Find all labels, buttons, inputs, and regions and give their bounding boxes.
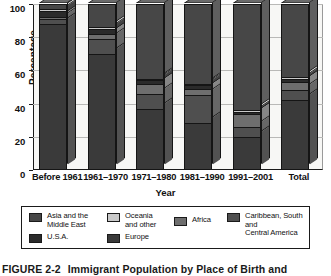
bar-front-face[interactable] [184, 4, 212, 170]
y-tick-0 [29, 170, 33, 171]
bar-group[interactable] [88, 4, 116, 170]
bar-side-face [212, 0, 221, 164]
bar-group[interactable] [281, 4, 309, 170]
bar-side-face [261, 0, 270, 164]
x-axis-title: Year [0, 187, 331, 198]
bar-side-segment [117, 43, 124, 164]
bar-side-segment [213, 113, 220, 164]
figure-caption-text: Immigrant Population by Place of Birth a… [68, 263, 287, 275]
y-axis: 020406080100 [0, 4, 31, 170]
legend-item-label: Oceania and other [125, 212, 156, 229]
legend-item-label: U.S.A. [47, 233, 68, 242]
legend-item-label: Africa [192, 216, 211, 225]
x-tick-label: Before 1961 [32, 172, 83, 182]
y-tick-label-60: 60 [15, 69, 25, 80]
bar-side-segment [68, 13, 75, 164]
plot-background [33, 4, 323, 170]
x-tick-label: Total [289, 172, 310, 182]
bar-group[interactable] [136, 4, 164, 170]
legend-item-label: Europe [125, 233, 149, 242]
bar-segment[interactable] [185, 96, 211, 124]
bar-segment[interactable] [89, 55, 115, 170]
figure-caption: FIGURE 2-2Immigrant Population by Place … [2, 263, 329, 275]
y-tick-20 [29, 137, 33, 138]
y-tick-label-0: 0 [20, 169, 25, 180]
bar-side-segment [165, 98, 172, 164]
legend-item[interactable]: U.S.A. [29, 233, 101, 243]
x-tick-label: 1991–2001 [228, 172, 273, 182]
bar-segment[interactable] [89, 40, 115, 55]
figure-container: 020406080100 Percentage Before 19611961–… [0, 0, 331, 276]
bar-segment[interactable] [234, 138, 260, 170]
x-tick-label: 1961–1970 [83, 172, 128, 182]
bar-group[interactable] [39, 4, 67, 170]
y-tick-80 [29, 37, 33, 38]
bar-side-face [309, 0, 318, 164]
bar-side-segment [310, 90, 317, 164]
x-axis: Before 19611961–19701971–19801981–199019… [33, 172, 323, 186]
bar-segment[interactable] [185, 5, 211, 85]
bar-group[interactable] [233, 4, 261, 170]
bar-segment[interactable] [89, 5, 115, 28]
x-tick-label: 1971–1980 [131, 172, 176, 182]
bar-side-face [116, 0, 125, 164]
y-tick-100 [29, 4, 33, 5]
figure-number: FIGURE 2-2 [2, 263, 61, 275]
legend-item[interactable]: Oceania and other [107, 212, 169, 229]
legend-item[interactable]: Europe [107, 233, 169, 243]
bar-front-face[interactable] [39, 4, 67, 170]
bar-segment[interactable] [137, 110, 163, 170]
bar-segment[interactable] [137, 85, 163, 95]
bar-segment[interactable] [137, 5, 163, 80]
y-tick-label-20: 20 [15, 135, 25, 146]
bar-segment[interactable] [282, 101, 308, 170]
gridline-40 [33, 104, 323, 105]
bar-front-face[interactable] [233, 4, 261, 170]
bar-front-face[interactable] [136, 4, 164, 170]
bar-segment[interactable] [234, 115, 260, 128]
gridline-80 [33, 37, 323, 38]
gridline-20 [33, 137, 323, 138]
legend: Asia and the Middle EastOceania and othe… [21, 206, 310, 249]
legend-swatch-africa-icon [174, 217, 187, 226]
bar-group[interactable] [184, 4, 212, 170]
bar-side-segment [262, 0, 269, 105]
legend-swatch-usa-icon [29, 234, 42, 243]
legend-item[interactable]: Africa [174, 216, 228, 226]
legend-swatch-oceania-icon [107, 213, 120, 222]
bar-segment[interactable] [185, 90, 211, 97]
bar-front-face[interactable] [88, 4, 116, 170]
legend-swatch-caribbean-icon [227, 213, 240, 222]
bar-front-face[interactable] [281, 4, 309, 170]
bar-segment[interactable] [282, 83, 308, 91]
bar-side-segment [213, 0, 220, 78]
bar-segment[interactable] [282, 5, 308, 78]
bar-segment[interactable] [137, 95, 163, 110]
y-tick-label-40: 40 [15, 102, 25, 113]
legend-swatch-asia-icon [29, 213, 42, 222]
bar-segment[interactable] [234, 5, 260, 111]
bar-segment[interactable] [40, 25, 66, 170]
y-tick-60 [29, 70, 33, 71]
legend-swatch-europe-icon [107, 234, 120, 243]
x-tick-label: 1981–1990 [180, 172, 225, 182]
legend-item[interactable]: Caribbean, South and Central America [227, 212, 309, 238]
plot-area [33, 4, 323, 170]
y-tick-label-80: 80 [15, 36, 25, 47]
bar-side-segment [262, 126, 269, 164]
gridline-100 [33, 4, 323, 5]
bar-segment[interactable] [234, 128, 260, 138]
bar-side-face [67, 0, 76, 164]
bar-side-segment [165, 0, 172, 73]
legend-item-label: Caribbean, South and Central America [245, 212, 309, 238]
bar-side-segment [310, 0, 317, 71]
y-tick-40 [29, 104, 33, 105]
y-tick-label-100: 100 [10, 3, 25, 14]
gridline-60 [33, 70, 323, 71]
legend-item-label: Asia and the Middle East [47, 212, 88, 229]
bar-segment[interactable] [282, 91, 308, 101]
bar-side-face [164, 0, 173, 164]
legend-item[interactable]: Asia and the Middle East [29, 212, 101, 229]
bar-segment[interactable] [40, 12, 66, 19]
bar-segment[interactable] [185, 124, 211, 170]
